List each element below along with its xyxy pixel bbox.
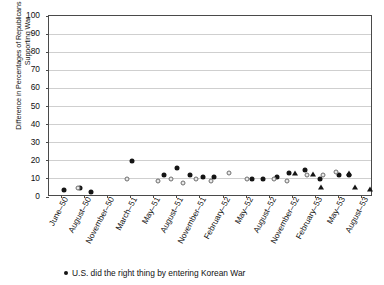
gridline <box>49 124 371 125</box>
y-tick-label: 100 <box>26 11 40 19</box>
y-tick-mark <box>46 124 49 125</box>
data-point <box>129 158 134 163</box>
data-point <box>304 173 309 178</box>
y-tick-mark <box>46 16 49 17</box>
gridline <box>49 160 371 161</box>
y-tick-label: 60 <box>31 83 40 91</box>
data-point <box>194 176 199 181</box>
gridline <box>49 70 371 71</box>
y-tick-mark <box>46 52 49 53</box>
gridline <box>49 142 371 143</box>
x-tick-label: May–51 <box>141 196 162 226</box>
data-point <box>162 173 167 178</box>
data-point <box>333 169 338 174</box>
data-point <box>302 167 307 172</box>
data-point <box>168 176 173 181</box>
y-tick-label: 10 <box>31 174 40 182</box>
data-point <box>272 176 277 181</box>
data-point <box>155 178 160 183</box>
data-point <box>244 176 249 181</box>
y-tick-label: 30 <box>31 137 40 145</box>
data-point <box>260 176 265 181</box>
y-tick-mark <box>46 106 49 107</box>
y-tick-label: 0 <box>35 192 40 200</box>
chart-legend: U.S. did the right thing by entering Kor… <box>64 268 384 279</box>
y-tick-label: 50 <box>31 101 40 109</box>
data-point <box>285 178 290 183</box>
data-point <box>76 185 81 190</box>
y-tick-mark <box>46 178 49 179</box>
x-tick-label: August–53 <box>345 196 371 234</box>
data-point <box>209 178 214 183</box>
data-point <box>346 170 352 175</box>
y-tick-label: 70 <box>31 65 40 73</box>
x-tick-label: May–52 <box>234 196 255 226</box>
chart-figure: Difference in Percentages of Republicans… <box>0 0 384 285</box>
x-axis-tick-labels: June–50August–50November–50March–51May–5… <box>48 196 372 258</box>
x-tick-label: May–53 <box>327 196 348 226</box>
plot-area <box>48 15 372 196</box>
data-point <box>367 186 373 191</box>
data-point <box>310 172 316 177</box>
legend-item: U.S. did the right thing by entering Kor… <box>64 268 384 279</box>
y-tick-label: 20 <box>31 156 40 164</box>
y-tick-label: 80 <box>31 47 40 55</box>
data-point <box>181 180 186 185</box>
x-tick-label: March–51 <box>115 196 139 232</box>
data-point <box>320 173 325 178</box>
gridline <box>49 52 371 53</box>
data-point <box>292 170 298 175</box>
x-tick-label: June–50 <box>48 196 70 228</box>
data-point <box>124 176 129 181</box>
data-point <box>318 185 324 190</box>
gridline <box>49 88 371 89</box>
y-tick-mark <box>46 70 49 71</box>
legend-marker-icon <box>64 271 68 275</box>
y-tick-label: 40 <box>31 119 40 127</box>
data-point <box>174 166 179 171</box>
gridline <box>49 34 371 35</box>
data-point <box>352 185 358 190</box>
y-tick-mark <box>46 142 49 143</box>
data-point <box>200 175 205 180</box>
x-tick-label: February–52 <box>203 196 232 241</box>
data-point <box>187 173 192 178</box>
y-tick-mark <box>46 160 49 161</box>
y-tick-mark <box>46 88 49 89</box>
data-point <box>249 176 254 181</box>
data-point <box>61 187 66 192</box>
data-point <box>286 171 291 176</box>
data-point <box>226 171 231 176</box>
y-axis-tick-labels: 0102030405060708090100 <box>0 15 44 196</box>
y-tick-label: 90 <box>31 29 40 37</box>
legend-label: U.S. did the right thing by entering Kor… <box>72 268 245 279</box>
legend-marker <box>64 271 68 275</box>
gridline <box>49 106 371 107</box>
data-point <box>89 189 94 194</box>
y-tick-mark <box>46 34 49 35</box>
